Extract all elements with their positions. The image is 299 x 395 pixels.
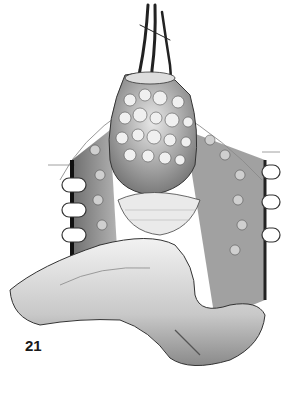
figure-number: 21 <box>25 337 42 354</box>
surgical-illustration <box>0 0 299 395</box>
gland-mass <box>109 72 197 195</box>
membrane-fold <box>118 193 200 236</box>
left-retractor <box>62 178 86 242</box>
right-retractor <box>262 165 280 242</box>
